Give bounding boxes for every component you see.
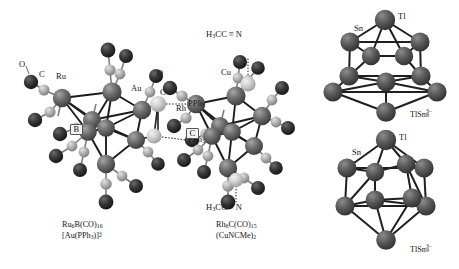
pph3-top-subscript: 3 <box>202 102 205 108</box>
label-thallium-bottom: Tl <box>399 133 407 142</box>
caption-rh: Rh <box>216 220 226 229</box>
caption-cuncme-sub: 2 <box>253 234 256 240</box>
label-oxygen-left: O <box>19 60 25 69</box>
label-tin-top: Sn <box>354 24 363 33</box>
label-rhodium: Rh <box>176 104 186 113</box>
nitrile-bottom-cc: CC <box>215 202 227 212</box>
nitrile-top-n: N <box>236 29 242 39</box>
label-boron: B <box>70 124 83 135</box>
nitrile-bottom-n: N <box>236 202 242 212</box>
tlsn8-spheres <box>323 10 446 122</box>
caption-au-pph: [Au(PPh <box>62 231 91 240</box>
caption-ru6b-line1: Ru6B(CO)16 <box>62 220 103 231</box>
pph3-bottom-subscript: 3 <box>202 138 205 144</box>
label-pph3-top: PPh3 <box>188 99 205 109</box>
caption-ru6b-line2: [Au(PPh3)]−2 <box>62 231 103 242</box>
caption-ru: Ru <box>62 220 72 229</box>
label-carbon-middle: C <box>160 88 166 97</box>
tlsn9-cluster-structure <box>335 130 435 250</box>
label-thallium-top: Tl <box>398 12 406 21</box>
label-oxygen-middle: O <box>157 69 163 78</box>
caption-charge-stack: −2 <box>99 231 101 242</box>
label-interstitial-carbon: C <box>186 128 199 139</box>
caption-rh6c-line2: (CuNCMe)2 <box>216 231 257 242</box>
tlsn8-cluster-structure <box>323 10 446 122</box>
caption-tlsn8-stack: 3−8 <box>426 110 430 121</box>
ruthenium-spheres <box>53 82 151 173</box>
caption-tlsn8-main: TlSn <box>410 110 426 119</box>
caption-tlsn9-sub: 9 <box>426 247 429 254</box>
caption-cco: C(CO) <box>228 220 250 229</box>
label-ruthenium: Ru <box>56 72 66 81</box>
pph3-top-text: PPh <box>188 98 202 108</box>
caption-tlsn9-main: TlSn <box>410 245 426 254</box>
label-acetonitrile-top: H3CC≡N <box>206 30 242 40</box>
label-acetonitrile-bottom: H3CC≡N <box>206 203 242 213</box>
caption-tlsn8: TlSn3−8 <box>410 110 430 121</box>
caption-rh6c-line1: Rh6C(CO)15 <box>216 220 257 231</box>
rh6c-cluster-structure <box>163 55 295 209</box>
nitrile-bottom-triple-bond: ≡ <box>229 202 234 212</box>
label-gold: Au <box>131 84 142 93</box>
caption-tlsn9: TlSn3−9 <box>410 245 430 256</box>
label-carbon-left: C <box>39 70 45 79</box>
caption-bco: B(CO) <box>74 220 96 229</box>
caption-rh-co-sub: 15 <box>251 223 257 229</box>
caption-rh6c-cluster: Rh6C(CO)15 (CuNCMe)2 <box>216 220 257 241</box>
caption-tlsn8-sub: 8 <box>426 112 429 119</box>
molecular-cluster-figure: O C Ru Au B PPh3 PPh3 H3CC≡N H3CC≡N O C … <box>0 0 459 269</box>
label-copper: Cu <box>221 68 231 77</box>
nitrile-top-cc: CC <box>215 29 227 39</box>
tlsn9-spheres <box>335 130 435 250</box>
left-label-leaders <box>26 66 29 74</box>
caption-tlsn9-stack: 3−9 <box>426 245 430 256</box>
nitrile-top-triple-bond: ≡ <box>229 29 234 39</box>
caption-cuncme: (CuNCMe) <box>216 231 253 240</box>
label-tin-bottom: Sn <box>352 148 361 157</box>
caption-charge-sub: 2 <box>99 232 102 239</box>
caption-ru6b-cluster: Ru6B(CO)16 [Au(PPh3)]−2 <box>62 220 103 241</box>
